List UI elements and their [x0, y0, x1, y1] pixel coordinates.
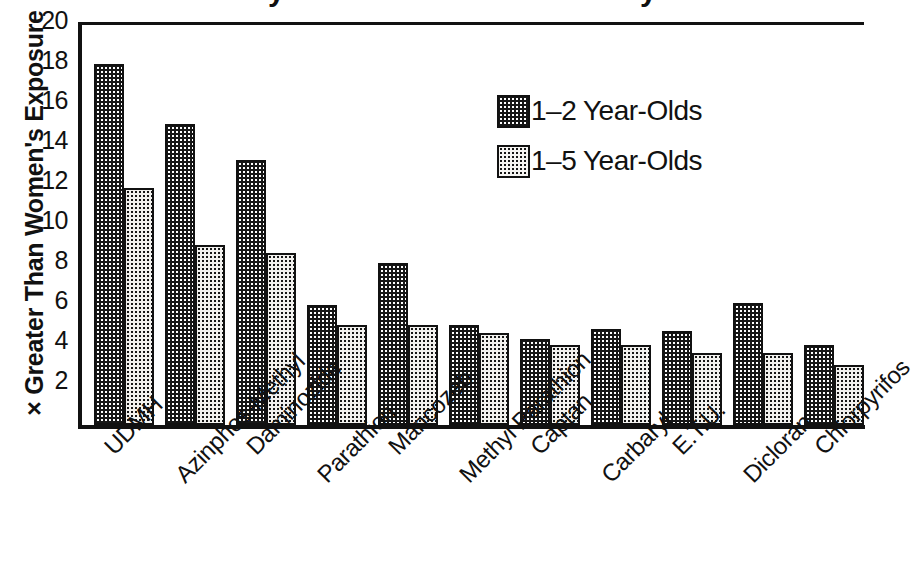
y-tick-label: 16	[28, 88, 68, 113]
y-tick-label: 2	[28, 368, 68, 393]
bar	[804, 345, 834, 425]
y-tick-label: 12	[28, 168, 68, 193]
y-tick-label: 8	[28, 248, 68, 273]
bar	[124, 188, 154, 425]
bar	[591, 329, 621, 425]
bar	[662, 331, 692, 425]
legend-swatch-light-icon	[497, 145, 530, 178]
y-axis-tick-labels: 20 18 16 14 12 10 8 6 4 2	[28, 0, 68, 440]
x-axis-baseline	[78, 425, 865, 429]
y-tick-label: 10	[28, 208, 68, 233]
y-tick-label: 18	[28, 48, 68, 73]
bar	[621, 345, 651, 425]
bar	[94, 64, 124, 425]
chart-legend: 1–2 Year-Olds 1–5 Year-Olds	[497, 88, 827, 188]
legend-label: 1–2 Year-Olds	[531, 95, 702, 127]
legend-swatch-dark-icon	[497, 95, 530, 128]
y-tick-label: 4	[28, 328, 68, 353]
bar	[195, 245, 225, 425]
legend-item: 1–5 Year-Olds	[497, 138, 827, 184]
bars-layer	[82, 24, 864, 425]
bar	[763, 353, 793, 425]
y-tick-label: 6	[28, 288, 68, 313]
y-tick-label: 14	[28, 128, 68, 153]
bar	[165, 124, 195, 425]
title-fragment: y	[268, 0, 285, 8]
legend-item: 1–2 Year-Olds	[497, 88, 827, 134]
legend-label: 1–5 Year-Olds	[531, 145, 702, 177]
title-fragment: y	[640, 0, 657, 8]
bar	[733, 303, 763, 425]
bar	[479, 333, 509, 425]
cropped-title-fragments: y y	[0, 0, 865, 16]
y-tick-label: 20	[28, 8, 68, 33]
